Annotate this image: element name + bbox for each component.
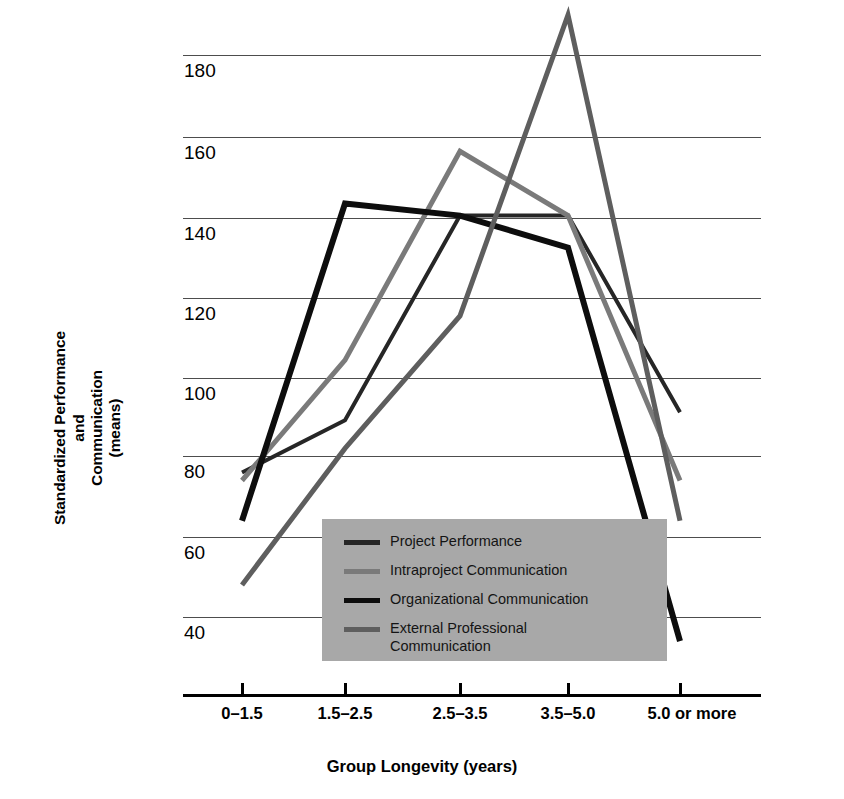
legend-swatch-icon-project-performance <box>344 540 380 545</box>
gridline-140 <box>183 218 761 219</box>
legend-label-organizational-communication: Organizational Communication <box>390 591 588 609</box>
x-tick-label-4: 5.0 or more <box>648 704 737 723</box>
x-tick-label-2: 2.5–3.5 <box>432 704 487 723</box>
legend-item-external-professional-communication: External Professional Communication <box>344 620 527 655</box>
legend-item-organizational-communication: Organizational Communication <box>344 591 588 609</box>
y-axis-title-line-3: Communication <box>88 370 106 486</box>
y-tick-label-160: 160 <box>184 142 230 164</box>
x-tick-4 <box>679 683 682 695</box>
gridline-160 <box>183 137 761 138</box>
y-axis-title-line-4: (means) <box>106 399 124 458</box>
gridline-120 <box>183 298 761 299</box>
legend-label-external-professional-communication: External Professional Communication <box>390 620 527 655</box>
gridline-80 <box>183 456 761 457</box>
legend-swatch-icon-organizational-communication <box>344 598 380 603</box>
legend-swatch-icon-external-professional-communication <box>344 627 380 632</box>
x-tick-3 <box>567 683 570 695</box>
gridline-180 <box>183 55 761 56</box>
legend-item-intraproject-communication: Intraproject Communication <box>344 562 567 580</box>
gridline-100 <box>183 378 761 379</box>
x-tick-0 <box>241 683 244 695</box>
x-tick-1 <box>344 683 347 695</box>
y-tick-label-60: 60 <box>184 542 230 564</box>
chart-legend: Project Performance Intraproject Communi… <box>322 519 667 661</box>
x-tick-label-0: 0–1.5 <box>221 704 262 723</box>
legend-item-project-performance: Project Performance <box>344 533 522 551</box>
x-axis-line <box>183 694 761 697</box>
y-tick-label-140: 140 <box>184 223 230 245</box>
x-tick-label-3: 3.5–5.0 <box>540 704 595 723</box>
y-tick-label-80: 80 <box>184 461 230 483</box>
x-tick-2 <box>459 683 462 695</box>
legend-label-project-performance: Project Performance <box>390 533 522 551</box>
line-chart: Standardized Performance and Communicati… <box>0 0 844 799</box>
legend-label-intraproject-communication: Intraproject Communication <box>390 562 567 580</box>
y-axis-title-line-1: Standardized Performance <box>51 331 69 525</box>
y-tick-label-120: 120 <box>184 303 230 325</box>
legend-swatch-icon-intraproject-communication <box>344 569 380 574</box>
y-tick-label-180: 180 <box>184 60 230 82</box>
y-axis-title-line-2: and <box>70 414 88 441</box>
x-tick-label-1: 1.5–2.5 <box>317 704 372 723</box>
y-tick-label-40: 40 <box>184 622 230 644</box>
y-tick-label-100: 100 <box>184 383 230 405</box>
y-axis-title: Standardized Performance and Communicati… <box>58 218 118 638</box>
x-axis-title: Group Longevity (years) <box>0 757 844 776</box>
